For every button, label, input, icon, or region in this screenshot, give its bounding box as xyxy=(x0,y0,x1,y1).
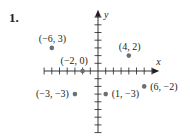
data-point xyxy=(73,92,78,97)
x-axis-label: x xyxy=(155,56,161,67)
x-axis-arrow-icon xyxy=(152,68,159,74)
data-point xyxy=(127,53,132,58)
y-axis-label: y xyxy=(103,9,109,20)
point-label: (−6, 3) xyxy=(39,33,66,45)
point-label: (1, −3) xyxy=(112,88,139,100)
data-point xyxy=(142,84,147,89)
data-point xyxy=(80,69,85,74)
point-label: (−2, 0) xyxy=(61,55,88,67)
y-axis-arrow-icon xyxy=(95,10,101,17)
coordinate-plane: xy(−6, 3)(4, 2)(−2, 0)(6, −2)(−3, −3)(1,… xyxy=(0,0,190,137)
data-point xyxy=(50,46,55,51)
point-label: (6, −2) xyxy=(150,81,177,93)
data-point xyxy=(103,92,108,97)
point-label: (−3, −3) xyxy=(36,88,69,100)
point-label: (4, 2) xyxy=(119,41,141,53)
